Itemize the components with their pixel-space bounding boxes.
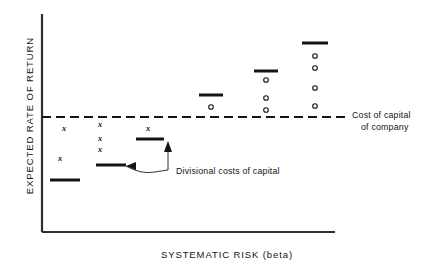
x-marker: x [57,153,63,163]
chart-figure: x x x x x x [0,0,440,270]
division-2-group: x x x [96,119,126,165]
divisional-costs-leader-lines [126,141,172,173]
division-4-group [199,95,223,109]
scatter-plot-canvas: x x x x x x [0,0,440,270]
cost-of-capital-line1: Cost of capital [352,110,411,120]
cost-of-capital-annotation: Cost of capitalof company [352,110,411,133]
x-axis-label: SYSTEMATIC RISK (beta) [122,249,332,260]
o-marker [264,78,269,83]
division-3-group: x [136,123,164,139]
o-marker [313,86,318,91]
o-marker [264,108,269,113]
x-marker: x [61,123,67,133]
o-marker [313,66,318,71]
o-marker [264,96,269,101]
division-5-group [254,71,278,112]
divisional-costs-annotation: Divisional costs of capital [176,166,280,176]
cost-of-capital-line2: of company [352,122,411,134]
axes-group [42,14,335,232]
o-marker [313,104,318,109]
o-marker [313,54,318,59]
division-6-group [302,43,328,108]
division-1-group: x x [50,123,80,180]
x-marker: x [97,119,103,129]
y-axis-label: EXPECTED RATE OF RETURN [24,21,35,211]
x-marker: x [97,133,103,143]
x-marker: x [97,144,103,154]
o-marker [209,105,214,110]
x-marker: x [145,123,151,133]
